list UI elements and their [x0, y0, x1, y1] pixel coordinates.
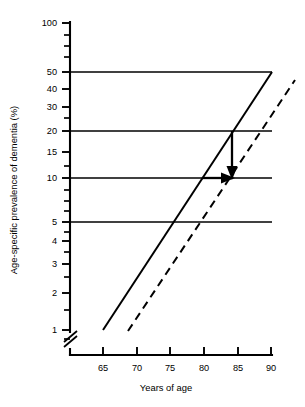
y-label-2: 2	[52, 288, 57, 298]
x-label-75: 75	[165, 363, 175, 373]
y-label-3: 3	[52, 259, 57, 269]
x-label-85: 85	[233, 363, 243, 373]
x-axis-title: Years of age	[140, 382, 192, 393]
y-label-1: 1	[52, 325, 57, 335]
y-label-4: 4	[52, 236, 57, 246]
chart-background	[0, 0, 305, 407]
y-label-20: 20	[47, 126, 57, 136]
y-label-50: 50	[47, 67, 57, 77]
x-label-70: 70	[132, 363, 142, 373]
figure-container: 100 50 40 30 20 15 10 5 4 3 2 1 65 70 75	[0, 0, 305, 407]
y-label-100: 100	[42, 18, 57, 28]
y-label-10: 10	[47, 173, 57, 183]
y-label-15: 15	[47, 147, 57, 157]
y-axis-title: Age-specific prevalence of dementia (%)	[8, 106, 19, 274]
dementia-prevalence-chart: 100 50 40 30 20 15 10 5 4 3 2 1 65 70 75	[0, 0, 305, 407]
x-label-65: 65	[98, 363, 108, 373]
x-label-90: 90	[266, 363, 276, 373]
y-label-30: 30	[47, 102, 57, 112]
y-label-5: 5	[52, 217, 57, 227]
x-label-80: 80	[199, 363, 209, 373]
y-label-40: 40	[47, 84, 57, 94]
